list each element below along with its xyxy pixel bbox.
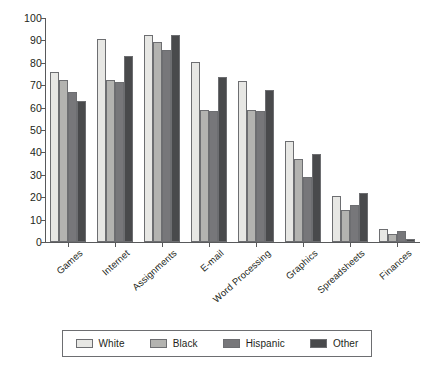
bar: [238, 81, 247, 242]
y-axis-tick-mark: [41, 63, 45, 64]
x-axis-category-label: Finances: [377, 248, 413, 282]
bar: [77, 101, 86, 242]
legend-item: Black: [150, 338, 198, 349]
x-axis-category-labels: GamesInternetAssignmentsE-mailWord Proce…: [0, 244, 434, 324]
bar: [191, 62, 200, 242]
legend-label: Other: [333, 338, 359, 349]
bar: [106, 80, 115, 242]
y-axis-tick-mark: [41, 18, 45, 19]
legend-item: Other: [310, 338, 359, 349]
bar: [218, 77, 227, 242]
y-axis-tick-mark: [41, 152, 45, 153]
bar: [247, 110, 256, 242]
bar: [256, 111, 265, 242]
legend: WhiteBlackHispanicOther: [62, 330, 372, 357]
bar: [341, 210, 350, 242]
bar: [200, 110, 209, 242]
bar: [359, 193, 368, 242]
bar: [171, 35, 180, 242]
y-axis-tick-label: 100: [24, 13, 42, 23]
legend-swatch: [76, 339, 93, 348]
bar: [115, 82, 124, 242]
legend-label: Hispanic: [246, 338, 285, 349]
y-axis-tick-mark: [41, 175, 45, 176]
bar: [162, 50, 171, 242]
bar: [144, 35, 153, 242]
legend-label: White: [99, 338, 125, 349]
legend-item: Hispanic: [223, 338, 285, 349]
bar: [406, 239, 415, 242]
legend-swatch: [150, 339, 167, 348]
legend-swatch: [223, 339, 240, 348]
bar: [379, 229, 388, 242]
bar: [312, 154, 321, 242]
x-axis-category-label: Spreadsheets: [315, 248, 366, 295]
x-axis-category-label: Graphics: [284, 248, 320, 281]
bar: [332, 196, 341, 242]
bar: [59, 80, 68, 242]
y-axis-tick-mark: [41, 197, 45, 198]
y-axis-tick-labels: 0102030405060708090100: [8, 18, 42, 242]
bar: [303, 177, 312, 242]
bar: [209, 111, 218, 242]
bar: [350, 205, 359, 242]
x-axis-category-label: Internet: [101, 248, 132, 278]
bar: [388, 234, 397, 242]
bar: [124, 56, 133, 242]
plot-area: 0102030405060708090100: [0, 0, 434, 270]
y-axis-tick-mark: [41, 242, 45, 243]
bar: [285, 141, 294, 242]
y-axis-tick-mark: [41, 108, 45, 109]
x-axis-category-label: Games: [55, 248, 85, 276]
bar-chart: 0102030405060708090100 GamesInternetAssi…: [0, 0, 434, 370]
bar: [68, 92, 77, 242]
legend-label: Black: [173, 338, 198, 349]
y-axis-tick-mark: [41, 40, 45, 41]
bar: [97, 39, 106, 242]
bar: [153, 42, 162, 242]
y-axis-tick-mark: [41, 130, 45, 131]
x-axis-category-label: E-mail: [199, 248, 226, 274]
x-axis-category-label: Assignments: [131, 248, 179, 293]
y-axis-tick-mark: [41, 85, 45, 86]
bar: [294, 159, 303, 242]
x-axis-line: [45, 242, 420, 243]
bars-layer: [45, 18, 420, 242]
legend-swatch: [310, 339, 327, 348]
bar: [50, 72, 59, 242]
bar: [265, 90, 274, 242]
legend-item: White: [76, 338, 125, 349]
y-axis-tick-mark: [41, 220, 45, 221]
bar: [397, 231, 406, 242]
